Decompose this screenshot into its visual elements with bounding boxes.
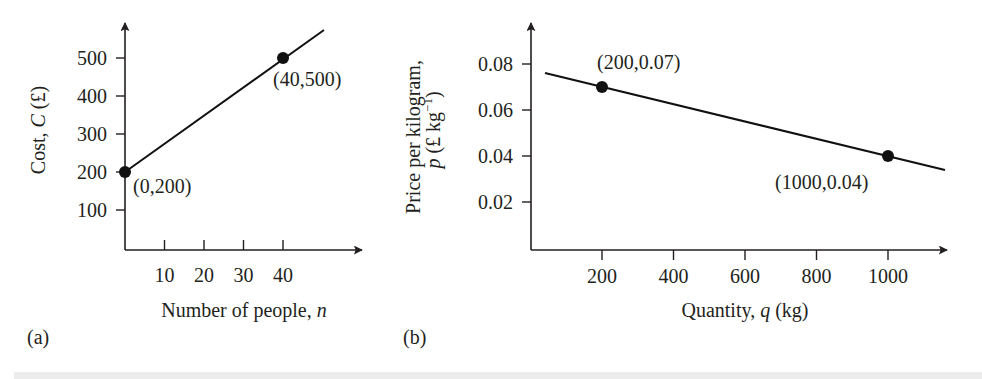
chart-b-x-tick-label: 200 xyxy=(587,265,617,287)
chart-b-y-tick-label: 0.06 xyxy=(478,99,513,121)
chart-b-point-label: (1000,0.04) xyxy=(775,171,868,194)
chart-a-x-tick-label: 10 xyxy=(155,264,175,286)
chart-b-x-axis-title: Quantity, q (kg) xyxy=(681,299,808,322)
chart-b-x-ticks: 200 400 600 800 1000 xyxy=(587,250,908,287)
chart-b-y-tick-label: 0.04 xyxy=(478,145,513,167)
chart-b-x-tick-label: 1000 xyxy=(868,265,908,287)
chart-a-y-axis-title: Cost, C (£) xyxy=(27,86,50,174)
chart-a-y-tick-label: 100 xyxy=(77,199,107,221)
chart-b-y-ticks: 0.08 0.06 0.04 0.02 xyxy=(478,53,531,213)
chart-a-point-label: (40,500) xyxy=(273,68,341,91)
chart-a-y-tick-label: 500 xyxy=(77,47,107,69)
chart-b-y-axis-title-line2: p (£ kg−1) xyxy=(420,91,445,170)
chart-a-x-ticks: 10 20 30 40 xyxy=(155,240,294,286)
panel-label-a: (a) xyxy=(27,326,49,349)
chart-b: 0.08 0.06 0.04 0.02 200 400 600 800 1000… xyxy=(402,23,947,349)
chart-b-y-tick-label: 0.02 xyxy=(478,191,513,213)
bottom-divider-band xyxy=(14,372,982,379)
chart-b-point-1000-0.04 xyxy=(882,150,894,162)
chart-a-x-axis-title: Number of people, n xyxy=(161,299,327,322)
chart-a-y-tick-label: 200 xyxy=(77,161,107,183)
chart-b-point-label: (200,0.07) xyxy=(597,51,680,74)
chart-b-y-tick-label: 0.08 xyxy=(478,53,513,75)
figure-canvas: 500 400 300 200 100 10 20 30 40 (0,200) … xyxy=(0,0,982,379)
figure: 500 400 300 200 100 10 20 30 40 (0,200) … xyxy=(0,0,982,379)
chart-a-point-40-500 xyxy=(277,52,289,64)
chart-b-x-tick-label: 800 xyxy=(802,265,832,287)
chart-a-x-tick-label: 40 xyxy=(273,264,293,286)
chart-a: 500 400 300 200 100 10 20 30 40 (0,200) … xyxy=(27,23,362,349)
chart-a-y-tick-label: 400 xyxy=(77,85,107,107)
chart-b-point-200-0.07 xyxy=(596,81,608,93)
chart-b-x-tick-label: 600 xyxy=(730,265,760,287)
chart-a-point-label: (0,200) xyxy=(133,175,191,198)
chart-b-x-tick-label: 400 xyxy=(659,265,689,287)
panel-label-b: (b) xyxy=(403,326,426,349)
chart-a-y-tick-label: 300 xyxy=(77,123,107,145)
chart-a-line xyxy=(125,30,324,172)
chart-a-point-0-200 xyxy=(119,166,131,178)
chart-a-y-ticks: 500 400 300 200 100 xyxy=(77,47,125,221)
chart-a-x-tick-label: 30 xyxy=(234,264,254,286)
chart-a-x-tick-label: 20 xyxy=(194,264,214,286)
